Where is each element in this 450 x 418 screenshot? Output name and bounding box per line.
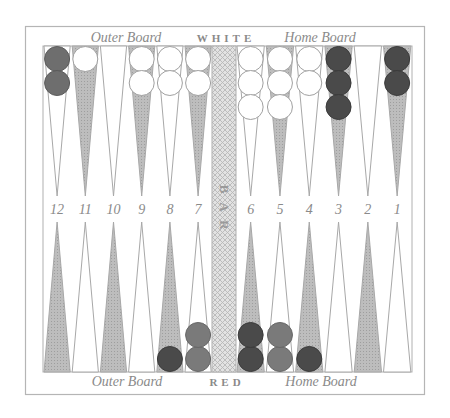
checker-red[interactable] — [45, 71, 70, 96]
checker-white[interactable] — [129, 71, 154, 96]
checker-dark[interactable] — [385, 71, 410, 96]
point-number-2: 2 — [364, 202, 371, 217]
checker-dark[interactable] — [157, 347, 182, 372]
label-top-outer-board: Outer Board — [91, 30, 163, 45]
checker-white[interactable] — [267, 71, 292, 96]
checker-mid[interactable] — [186, 347, 211, 372]
checker-white[interactable] — [157, 47, 182, 72]
checker-white[interactable] — [297, 47, 322, 72]
checker-white[interactable] — [238, 95, 263, 120]
point-number-5: 5 — [276, 202, 283, 217]
checker-mid[interactable] — [267, 347, 292, 372]
checker-dark[interactable] — [238, 323, 263, 348]
label-bottom-home-board: Home Board — [284, 374, 357, 389]
point-number-7: 7 — [195, 202, 203, 217]
bar-label: B A R — [217, 185, 232, 231]
point-number-8: 8 — [166, 202, 173, 217]
checker-white[interactable] — [73, 47, 98, 72]
checker-white[interactable] — [129, 47, 154, 72]
checker-mid[interactable] — [267, 323, 292, 348]
checker-white[interactable] — [186, 47, 211, 72]
checker-dark[interactable] — [297, 347, 322, 372]
checker-white[interactable] — [297, 71, 322, 96]
point-number-6: 6 — [247, 202, 254, 217]
point-number-1: 1 — [394, 202, 401, 217]
checker-white[interactable] — [238, 47, 263, 72]
checker-white[interactable] — [186, 71, 211, 96]
svg-text:A: A — [217, 202, 232, 212]
checker-white[interactable] — [267, 47, 292, 72]
checker-dark[interactable] — [326, 47, 351, 72]
svg-text:B: B — [217, 185, 232, 194]
label-bottom-outer-board: Outer Board — [92, 374, 164, 389]
label-top-home-board: Home Board — [283, 30, 356, 45]
label-bottom-player-red: RED — [209, 376, 244, 388]
point-number-4: 4 — [306, 202, 313, 217]
checker-dark[interactable] — [238, 347, 263, 372]
label-top-player-white: WHITE — [197, 32, 256, 44]
point-number-9: 9 — [138, 202, 145, 217]
checker-dark[interactable] — [326, 95, 351, 120]
checker-white[interactable] — [157, 71, 182, 96]
point-number-11: 11 — [79, 202, 92, 217]
svg-text:R: R — [217, 220, 232, 230]
checker-white[interactable] — [267, 95, 292, 120]
checker-red[interactable] — [45, 47, 70, 72]
checker-dark[interactable] — [326, 71, 351, 96]
backgammon-board: Outer Board WHITE Home Board Outer Board… — [0, 0, 450, 418]
checker-mid[interactable] — [186, 323, 211, 348]
checker-dark[interactable] — [385, 47, 410, 72]
point-number-10: 10 — [107, 202, 121, 217]
checker-white[interactable] — [238, 71, 263, 96]
point-number-3: 3 — [334, 202, 342, 217]
point-number-12: 12 — [50, 202, 64, 217]
